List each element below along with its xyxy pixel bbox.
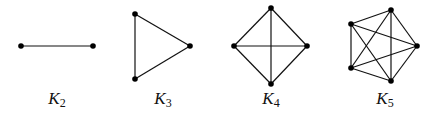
vertex — [132, 76, 138, 82]
vertex — [348, 21, 354, 27]
label-k4: K4 — [262, 89, 279, 111]
vertex — [268, 81, 274, 87]
edge — [351, 24, 417, 46]
vertex — [348, 65, 354, 71]
edge — [351, 10, 391, 68]
edge — [351, 46, 417, 68]
edge — [135, 46, 190, 79]
vertex — [268, 5, 274, 11]
edge — [351, 24, 391, 81]
edge — [234, 46, 271, 84]
vertex — [90, 43, 96, 49]
complete-graphs-diagram — [0, 0, 439, 116]
label-k3: K3 — [154, 89, 171, 111]
edge — [135, 14, 190, 46]
edge — [271, 46, 307, 84]
vertex — [304, 43, 310, 49]
vertex — [414, 43, 420, 49]
graph-edges — [21, 8, 417, 84]
edge — [271, 8, 307, 46]
vertex — [132, 11, 138, 17]
label-k2: K2 — [48, 89, 65, 111]
edge — [391, 10, 417, 46]
vertex — [18, 43, 24, 49]
label-k5: K5 — [376, 89, 393, 111]
vertex — [388, 7, 394, 13]
vertex — [388, 78, 394, 84]
vertex — [231, 43, 237, 49]
vertex — [187, 43, 193, 49]
edge — [351, 10, 391, 24]
edge — [391, 46, 417, 81]
edge — [351, 68, 391, 81]
edge — [234, 8, 271, 46]
